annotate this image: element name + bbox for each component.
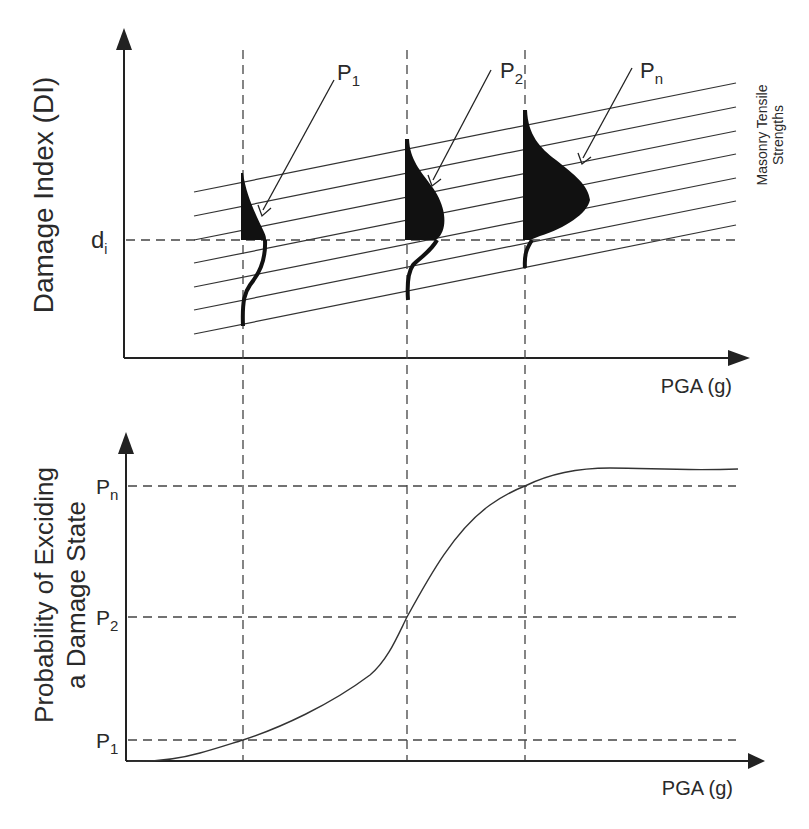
distribution-pn [523,110,590,268]
top-y-axis-label: Damage Index (DI) [28,77,59,314]
top-y-arrow-icon [116,28,132,50]
top-chart: P1 P2 Pn di Damage Index (DI) PGA (g) Ma… [28,28,786,762]
masonry-label-line2: Strengths [770,105,786,165]
tick-label-pn: Pn [96,475,118,503]
pga-guide-lines [243,50,525,762]
bottom-chart: Pn P2 P1 Probability of Exciding a Damag… [29,432,765,799]
fragility-curve [128,468,738,761]
top-x-arrow-icon [728,350,750,366]
tick-label-p2: P2 [96,606,118,634]
bottom-y-axis-label-line1: Probability of Exciding [29,467,59,723]
bottom-y-axis-label-line2: a Damage State [61,501,91,689]
tick-label-p1: P1 [96,729,118,757]
bottom-y-arrow-icon [118,432,134,454]
masonry-label-line1: Masonry Tensile [754,84,770,185]
pointer-label-p1: P1 [337,60,360,89]
distribution-p2 [405,139,444,300]
fragility-diagram: P1 P2 Pn di Damage Index (DI) PGA (g) Ma… [0,0,809,829]
probability-guide-lines [128,486,736,740]
bottom-x-arrow-icon [748,753,765,769]
top-x-axis-label: PGA (g) [661,375,732,397]
bottom-x-axis-label: PGA (g) [662,777,733,799]
threshold-label: di [91,226,107,257]
pointer-label-p2: P2 [500,58,523,87]
pointer-label-pn: Pn [640,58,663,87]
